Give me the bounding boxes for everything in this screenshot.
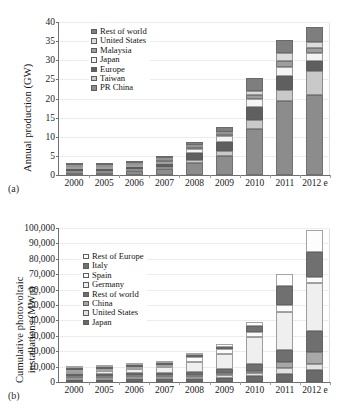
- y-tick-mark: [56, 320, 59, 321]
- gridline: [59, 228, 330, 229]
- bar-segment-japan: [96, 380, 113, 382]
- bar-segment-japan: [276, 374, 293, 382]
- bar-segment-japan: [246, 99, 263, 107]
- legend-swatch-icon: [91, 76, 97, 82]
- x-tick-label: 2006: [125, 385, 144, 395]
- legend-swatch-icon: [91, 48, 97, 54]
- legend-swatch-icon: [91, 29, 97, 35]
- y-tick-label: 0: [50, 170, 55, 180]
- bar-segment-europe: [246, 107, 263, 120]
- legend-item-japan[interactable]: Japan: [83, 318, 144, 327]
- y-tick-mark: [56, 22, 59, 23]
- panel-label-b: (b): [8, 390, 20, 401]
- y-tick-label: 70,000: [29, 269, 55, 279]
- x-tick-label: 2005: [95, 178, 114, 188]
- bar-segment-rest-of-world: [246, 78, 263, 90]
- legend-label: Japan: [92, 318, 112, 327]
- y-tick-mark: [56, 290, 59, 291]
- x-tick-mark: [270, 175, 271, 178]
- y-tick-mark: [56, 367, 59, 368]
- bar-2000: [66, 163, 83, 175]
- x-tick-label: 2006: [125, 178, 144, 188]
- bar-segment-japan: [156, 379, 173, 382]
- gridline: [59, 22, 330, 23]
- bar-segment-rest-of-europe: [306, 230, 323, 252]
- bar-segment-spain: [306, 277, 323, 284]
- y-tick-mark: [56, 118, 59, 119]
- bar-2007: [156, 156, 173, 175]
- y-tick-label: 100,000: [24, 223, 55, 233]
- bar-segment-japan: [246, 376, 263, 382]
- y-tick-label: 10: [46, 132, 56, 142]
- bar-2005: [96, 365, 113, 382]
- y-tick-mark: [56, 351, 59, 352]
- y-tick-mark: [56, 382, 59, 383]
- x-tick-label: 2010: [245, 385, 264, 395]
- y-tick-mark: [56, 175, 59, 176]
- y-tick-label: 30: [46, 55, 56, 65]
- x-tick-mark: [89, 175, 90, 178]
- x-tick-label: 2012 e: [302, 385, 328, 395]
- x-tick-label: 2010: [245, 178, 264, 188]
- chart-panel-a: (a) Annual production (GW) 0510152025303…: [0, 0, 340, 208]
- x-tick-mark: [210, 175, 211, 178]
- legend-a: Rest of worldUnited StatesMalaysiaJapanE…: [89, 25, 150, 95]
- bar-segment-rest-of-world: [306, 331, 323, 352]
- bar-2010: [246, 322, 263, 382]
- bar-segment-rest-of-world: [276, 40, 293, 53]
- legend-swatch-icon: [83, 273, 89, 279]
- y-tick-mark: [56, 99, 59, 100]
- bar-segment-china: [306, 352, 323, 364]
- bar-2006: [126, 161, 143, 175]
- y-tick-mark: [56, 79, 59, 80]
- x-tick-label: 2012 e: [302, 178, 328, 188]
- bar-2006: [126, 363, 143, 382]
- x-tick-mark: [240, 382, 241, 385]
- y-tick-mark: [56, 336, 59, 337]
- bar-segment-united-states: [276, 53, 293, 61]
- bar-segment-italy: [276, 286, 293, 306]
- bar-segment-europe: [216, 142, 233, 150]
- bar-segment-japan: [66, 380, 83, 382]
- legend-item-pr-china[interactable]: PR China: [91, 83, 147, 92]
- legend-swatch-icon: [91, 67, 97, 73]
- x-tick-label: 2007: [155, 178, 174, 188]
- legend-swatch-icon: [91, 57, 97, 63]
- y-tick-label: 90,000: [29, 238, 55, 248]
- x-tick-mark: [119, 175, 120, 178]
- x-tick-mark: [330, 382, 331, 385]
- bar-2012-e: [306, 230, 323, 382]
- x-tick-mark: [210, 382, 211, 385]
- y-tick-mark: [56, 243, 59, 244]
- bar-2011: [276, 274, 293, 382]
- y-tick-mark: [56, 41, 59, 42]
- x-tick-label: 2011: [276, 385, 295, 395]
- x-tick-mark: [240, 175, 241, 178]
- y-tick-mark: [56, 156, 59, 157]
- bar-2010: [246, 78, 263, 175]
- legend-swatch-icon: [91, 38, 97, 44]
- x-tick-mark: [300, 382, 301, 385]
- bar-segment-europe: [306, 61, 323, 71]
- bar-2012-e: [306, 27, 323, 175]
- bar-segment-europe: [186, 153, 203, 160]
- bar-segment-germany: [306, 283, 323, 331]
- bar-segment-pr-china: [126, 171, 143, 175]
- legend-swatch-icon: [83, 310, 89, 316]
- gridline: [59, 243, 330, 244]
- bar-segment-pr-china: [156, 169, 173, 175]
- y-tick-label: 20,000: [29, 346, 55, 356]
- bar-segment-pr-china: [306, 95, 323, 175]
- y-tick-mark: [56, 60, 59, 61]
- legend-swatch-icon: [83, 301, 89, 307]
- x-tick-label: 2005: [95, 385, 114, 395]
- x-tick-label: 2000: [65, 178, 84, 188]
- bar-2008: [186, 142, 203, 175]
- y-tick-label: 80,000: [29, 254, 55, 264]
- y-tick-label: 10,000: [29, 362, 55, 372]
- x-tick-mark: [89, 382, 90, 385]
- bar-segment-germany: [216, 354, 233, 369]
- x-tick-label: 2008: [185, 178, 204, 188]
- legend-swatch-icon: [83, 292, 89, 298]
- bar-segment-pr-china: [186, 163, 203, 175]
